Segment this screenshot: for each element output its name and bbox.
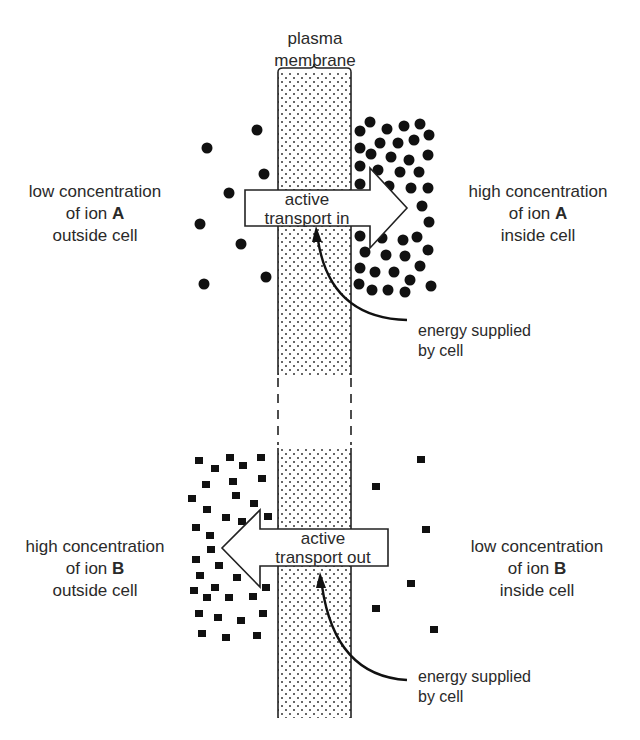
energy-text-line: energy supplied	[418, 667, 531, 687]
energy-text-line: by cell	[418, 687, 531, 707]
ion-name: B	[112, 559, 124, 578]
membrane-lower	[278, 448, 351, 718]
bottom-right-label: low concentration of ion B inside cell	[452, 536, 622, 602]
label-prefix: of ion	[509, 204, 555, 223]
diagram-canvas	[0, 0, 640, 740]
label-line: inside cell	[452, 580, 622, 602]
arrow-text-line: active	[258, 529, 388, 548]
energy-text-line: energy supplied	[418, 321, 531, 341]
arrow-text-line: transport out	[258, 548, 388, 567]
ion-name: B	[554, 559, 566, 578]
arrow-text-line: transport in	[246, 209, 368, 228]
label-prefix: of ion	[66, 204, 112, 223]
label-line: of ion A	[10, 203, 180, 225]
membrane-gap-dashed	[278, 378, 351, 445]
ion-name: A	[555, 204, 567, 223]
label-prefix: of ion	[66, 559, 112, 578]
transport-in-text: active transport in	[246, 190, 368, 228]
transport-out-text: active transport out	[258, 529, 388, 567]
top-energy-label: energy supplied by cell	[418, 321, 531, 361]
label-line: of ion B	[5, 558, 185, 580]
membrane-title-line1: plasma	[265, 28, 365, 50]
ion-name: A	[112, 204, 124, 223]
energy-text-line: by cell	[418, 341, 531, 361]
label-line: of ion A	[448, 203, 628, 225]
label-line: high concentration	[5, 536, 185, 558]
label-line: high concentration	[448, 181, 628, 203]
bottom-energy-label: energy supplied by cell	[418, 667, 531, 707]
membrane-title-line2: membrane	[265, 50, 365, 72]
label-line: low concentration	[452, 536, 622, 558]
label-line: outside cell	[5, 580, 185, 602]
label-line: of ion B	[452, 558, 622, 580]
bottom-left-label: high concentration of ion B outside cell	[5, 536, 185, 602]
top-right-label: high concentration of ion A inside cell	[448, 181, 628, 247]
label-prefix: of ion	[508, 559, 554, 578]
label-line: inside cell	[448, 225, 628, 247]
top-left-label: low concentration of ion A outside cell	[10, 181, 180, 247]
arrow-text-line: active	[246, 190, 368, 209]
membrane-title: plasma membrane	[265, 28, 365, 72]
label-line: outside cell	[10, 225, 180, 247]
label-line: low concentration	[10, 181, 180, 203]
